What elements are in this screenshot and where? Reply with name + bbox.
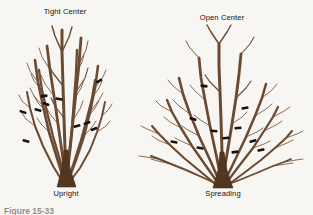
shrub-pruning-diagram: Tight Center Upright Open Center Spreadi… xyxy=(0,0,313,215)
figure-root: Tight Center Upright Open Center Spreadi… xyxy=(0,0,313,215)
label-spreading: Spreading xyxy=(205,189,241,198)
figure-caption: Figure 15-33 xyxy=(4,206,54,215)
spreading-pruning-cut-4 xyxy=(210,129,217,132)
label-tight-center: Tight Center xyxy=(44,7,87,16)
label-upright: Upright xyxy=(53,189,79,198)
label-open-center: Open Center xyxy=(200,13,245,22)
spreading-pruning-cut-6 xyxy=(222,136,229,139)
figure-caption-strip: Figure 15-33 xyxy=(0,206,313,215)
